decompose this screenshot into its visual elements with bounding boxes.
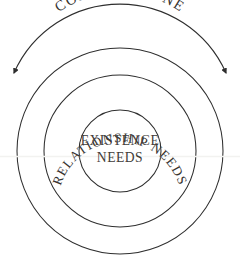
existence-needs-label-line1: EXISTENCE — [81, 133, 160, 148]
diagram-canvas: COMFORT ZONE RELATIONSHIP NEEDS EXISTENC… — [0, 0, 240, 273]
existence-needs-label-line2: NEEDS — [97, 150, 143, 165]
comfort-zone-diagram: COMFORT ZONE RELATIONSHIP NEEDS EXISTENC… — [0, 0, 240, 273]
